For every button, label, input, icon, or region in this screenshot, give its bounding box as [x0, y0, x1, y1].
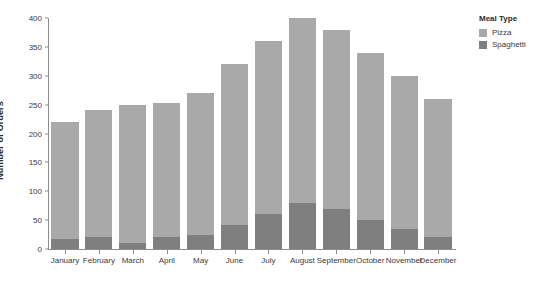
- bar-group[interactable]: [119, 105, 146, 249]
- y-axis-tick: 400: [29, 14, 48, 23]
- bar-segment-spaghetti[interactable]: [51, 239, 78, 249]
- y-axis-tick-mark: [45, 220, 48, 221]
- legend-items: PizzaSpaghetti: [479, 28, 554, 49]
- y-axis-tick: 0: [38, 245, 48, 254]
- bar-group[interactable]: [391, 76, 418, 249]
- y-axis-tick-mark: [45, 46, 48, 47]
- bar-segment-spaghetti[interactable]: [221, 225, 248, 249]
- x-axis-tick-mark: [133, 250, 134, 254]
- y-axis-tick: 250: [29, 100, 48, 109]
- bar-segment-pizza[interactable]: [391, 76, 418, 229]
- bar-segment-pizza[interactable]: [289, 18, 316, 203]
- legend-swatch: [479, 41, 487, 49]
- x-axis-tick-label: October: [356, 256, 384, 265]
- y-axis-tick-label: 300: [29, 71, 45, 80]
- x-axis-tick-mark: [370, 250, 371, 254]
- stacked-bar-chart: Number of Orders 05010015020025030035040…: [0, 0, 557, 281]
- bars-container: [48, 18, 455, 249]
- bar-segment-pizza[interactable]: [119, 105, 146, 244]
- bar-segment-spaghetti[interactable]: [153, 237, 180, 249]
- legend-swatch: [479, 29, 487, 37]
- y-axis-tick-mark: [45, 162, 48, 163]
- x-axis-tick-mark: [438, 250, 439, 254]
- x-axis-tick-label: August: [290, 256, 315, 265]
- y-axis-tick-mark: [45, 249, 48, 250]
- x-axis-tick-label: July: [261, 256, 275, 265]
- y-axis-tick-label: 400: [29, 14, 45, 23]
- x-axis-tick-mark: [201, 250, 202, 254]
- legend-title: Meal Type: [479, 14, 554, 23]
- x-axis-tick-mark: [302, 250, 303, 254]
- y-axis-tick-mark: [45, 75, 48, 76]
- legend: Meal Type PizzaSpaghetti: [479, 14, 554, 52]
- y-axis-tick-label: 250: [29, 100, 45, 109]
- x-axis-tick-mark: [235, 250, 236, 254]
- bar-segment-pizza[interactable]: [85, 110, 112, 237]
- x-axis-tick-mark: [65, 250, 66, 254]
- x-axis-tick-mark: [336, 250, 337, 254]
- x-axis-tick-mark: [99, 250, 100, 254]
- bar-segment-spaghetti[interactable]: [187, 235, 214, 249]
- x-axis-line: [48, 249, 456, 250]
- bar-group[interactable]: [323, 30, 350, 249]
- x-axis-tick-label: May: [193, 256, 208, 265]
- x-axis-tick-mark: [268, 250, 269, 254]
- x-axis-tick-label: February: [83, 256, 115, 265]
- y-axis-tick-label: 50: [33, 216, 45, 225]
- bar-segment-pizza[interactable]: [51, 122, 78, 239]
- bar-segment-pizza[interactable]: [323, 30, 350, 209]
- bar-segment-spaghetti[interactable]: [85, 237, 112, 249]
- y-axis-tick-mark: [45, 133, 48, 134]
- bar-group[interactable]: [221, 64, 248, 249]
- legend-label: Spaghetti: [492, 40, 526, 49]
- bar-group[interactable]: [51, 122, 78, 249]
- bar-segment-spaghetti[interactable]: [289, 203, 316, 249]
- bar-segment-pizza[interactable]: [187, 93, 214, 234]
- bar-segment-spaghetti[interactable]: [357, 220, 384, 249]
- y-axis-tick: 50: [33, 216, 48, 225]
- y-axis-tick: 350: [29, 42, 48, 51]
- y-axis-tick-mark: [45, 191, 48, 192]
- legend-label: Pizza: [492, 28, 512, 37]
- bar-group[interactable]: [357, 53, 384, 249]
- legend-item[interactable]: Spaghetti: [479, 40, 554, 49]
- x-axis-tick-label: April: [159, 256, 175, 265]
- y-axis-tick-label: 200: [29, 129, 45, 138]
- x-axis-tick-label: March: [122, 256, 144, 265]
- bar-segment-spaghetti[interactable]: [323, 209, 350, 249]
- bar-group[interactable]: [289, 18, 316, 249]
- plot-area: 050100150200250300350400: [48, 18, 455, 249]
- y-axis-tick: 100: [29, 187, 48, 196]
- bar-segment-pizza[interactable]: [424, 99, 451, 238]
- bar-group[interactable]: [255, 41, 282, 249]
- y-axis-tick: 300: [29, 71, 48, 80]
- bar-segment-spaghetti[interactable]: [119, 243, 146, 249]
- bar-segment-pizza[interactable]: [221, 64, 248, 225]
- x-axis-tick-mark: [404, 250, 405, 254]
- bar-segment-spaghetti[interactable]: [391, 229, 418, 249]
- bar-group[interactable]: [424, 99, 451, 249]
- y-axis-tick-label: 350: [29, 42, 45, 51]
- x-axis-tick-mark: [167, 250, 168, 254]
- bar-group[interactable]: [153, 103, 180, 249]
- y-axis-tick: 200: [29, 129, 48, 138]
- x-axis-tick-label: June: [226, 256, 243, 265]
- x-axis-tick-label: December: [420, 256, 457, 265]
- y-axis-tick-mark: [45, 18, 48, 19]
- bar-segment-spaghetti[interactable]: [424, 237, 451, 249]
- y-axis-tick-label: 100: [29, 187, 45, 196]
- bar-group[interactable]: [85, 110, 112, 249]
- bar-segment-pizza[interactable]: [357, 53, 384, 220]
- bar-group[interactable]: [187, 93, 214, 249]
- x-axis-tick-label: September: [317, 256, 356, 265]
- bar-segment-pizza[interactable]: [255, 41, 282, 214]
- x-axis-tick-label: January: [51, 256, 79, 265]
- y-axis-tick-mark: [45, 104, 48, 105]
- legend-item[interactable]: Pizza: [479, 28, 554, 37]
- y-axis-tick-label: 150: [29, 158, 45, 167]
- bar-segment-spaghetti[interactable]: [255, 214, 282, 249]
- y-axis-tick: 150: [29, 158, 48, 167]
- bar-segment-pizza[interactable]: [153, 103, 180, 237]
- y-axis-tick-label: 0: [38, 245, 45, 254]
- x-axis-tick-label: November: [386, 256, 423, 265]
